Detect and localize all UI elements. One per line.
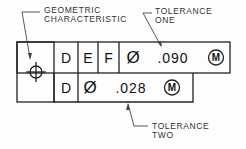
datum-f: F <box>98 42 119 73</box>
tolerance-two-leader <box>128 104 148 126</box>
tolerance-two-value: .028 <box>106 73 156 102</box>
datum-d-row2: D <box>54 73 78 102</box>
modifier-m: M <box>208 42 224 73</box>
geometric-characteristic-label: GEOMETRICCHARACTERISTIC <box>44 6 127 24</box>
datum-d: D <box>54 42 78 73</box>
tolerance-two-label: TOLERANCETWO <box>152 122 209 140</box>
geometric-leader <box>22 12 40 58</box>
datum-e: E <box>78 42 98 73</box>
tolerance-one-label: TOLERANCEONE <box>155 7 212 25</box>
tolerance-one-value: .090 <box>150 42 196 73</box>
position-icon <box>26 62 46 82</box>
diameter-symbol: Ø <box>123 42 143 73</box>
diameter-symbol-row2: Ø <box>80 73 100 102</box>
modifier-m-row2: M <box>164 73 180 102</box>
